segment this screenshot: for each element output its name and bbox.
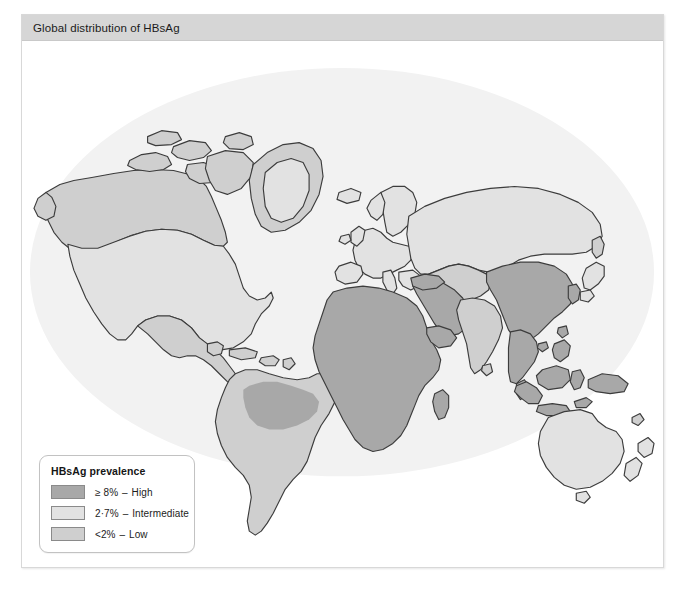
legend-dash-intermediate: – — [122, 508, 130, 519]
legend-item-low: <2% – Low — [51, 527, 184, 541]
figure-header-bar: Global distribution of HBsAg — [22, 15, 663, 41]
legend-text-high: High — [132, 487, 153, 498]
legend-range-high: ≥ 8% — [95, 487, 118, 498]
intermediate-swatch — [51, 506, 85, 520]
legend-range-low: <2% — [95, 529, 116, 540]
region-tasmania — [576, 491, 590, 503]
legend-item-high: ≥ 8% – High — [51, 485, 184, 499]
legend-label-intermediate: 2·7% – Intermediate — [95, 508, 189, 519]
region-new-caledonia — [632, 414, 644, 426]
region-australia — [538, 410, 624, 490]
low-swatch — [51, 527, 85, 541]
legend-range-intermediate: 2·7% — [95, 508, 119, 519]
legend-text-intermediate: Intermediate — [132, 508, 189, 519]
legend-dash-high: – — [121, 487, 129, 498]
legend-dash-low: – — [118, 529, 126, 540]
legend-item-intermediate: 2·7% – Intermediate — [51, 506, 184, 520]
region-hispaniola — [259, 356, 279, 366]
map-canvas: HBsAg prevalence ≥ 8% – High 2·7% – Inte… — [22, 41, 663, 567]
region-papua-new-guinea — [588, 374, 628, 394]
figure-frame: Global distribution of HBsAg — [21, 14, 664, 568]
legend-label-low: <2% – Low — [95, 529, 148, 540]
high-swatch — [51, 485, 85, 499]
figure-title: Global distribution of HBsAg — [22, 22, 180, 34]
map-legend: HBsAg prevalence ≥ 8% – High 2·7% – Inte… — [39, 455, 195, 553]
region-new-zealand-north — [638, 437, 654, 457]
region-yucatan — [207, 342, 223, 356]
region-new-zealand-south — [624, 457, 642, 481]
legend-title: HBsAg prevalence — [51, 465, 184, 477]
legend-label-high: ≥ 8% – High — [95, 487, 153, 498]
legend-text-low: Low — [129, 529, 148, 540]
